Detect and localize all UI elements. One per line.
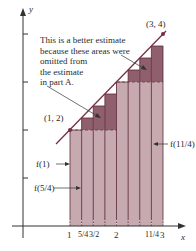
x-tick-2: 2 (114, 230, 119, 240)
point-start-label: (1, 2) (44, 113, 64, 123)
x-tick-3: 3 (160, 230, 165, 240)
annotation-line: because these areas were (40, 46, 140, 57)
lower-rectangle (140, 82, 152, 226)
lower-rectangle (70, 130, 82, 226)
annotation-line: This is a better estimate (40, 35, 140, 46)
x-axis-arrow-icon (178, 223, 186, 229)
callout-f11-4: f(11/4) (170, 139, 195, 149)
callout-f1: f(1) (36, 159, 50, 169)
point-end-label: (3, 4) (146, 19, 166, 29)
annotation-line: omitted from (40, 56, 140, 67)
x-tick-1: 1 (67, 230, 72, 240)
callout-f5-4: f(5/4) (34, 183, 55, 193)
lower-rectangle (93, 130, 105, 226)
annotation-text: This is a better estimate because these … (40, 35, 140, 88)
lower-rectangle (117, 82, 129, 226)
lower-rectangle (151, 82, 163, 226)
arrowhead-icon (65, 162, 70, 166)
x-tick-3-2: 3/2 (89, 230, 99, 240)
lower-rectangle (105, 130, 117, 226)
annotation-line: in part A. (40, 77, 140, 88)
lower-rectangle (82, 130, 94, 226)
point-end-dot (161, 32, 165, 36)
x-tick-11-4: 11/4 (145, 230, 159, 240)
annotation-line: the estimate (40, 67, 140, 78)
x-axis-label: x (181, 232, 185, 242)
y-axis-arrow-icon (20, 8, 26, 16)
lower-rectangle (128, 82, 140, 226)
point-start-dot (68, 128, 72, 132)
x-tick-5-4: 5/4 (78, 230, 88, 240)
y-axis-label: y (29, 4, 33, 14)
